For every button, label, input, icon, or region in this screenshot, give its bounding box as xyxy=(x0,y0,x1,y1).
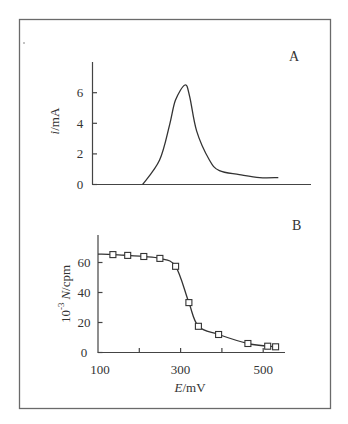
square-marker-icon xyxy=(245,341,251,347)
panel-b-y-ticks: 0204060 xyxy=(78,255,103,360)
panel-b-y-tick-label: 0 xyxy=(81,345,88,360)
panel-b-y-tick-label: 60 xyxy=(78,255,91,270)
panel-a-label: A xyxy=(289,49,300,64)
square-marker-icon xyxy=(110,252,116,258)
square-marker-icon xyxy=(265,343,271,349)
panel-b-x-axis-label: E/mV xyxy=(173,380,206,395)
square-marker-icon xyxy=(157,255,163,261)
panel-b-label: B xyxy=(292,218,301,233)
panel-b-ylabel-prefix: 10 xyxy=(58,310,73,323)
panel-b-y-axis-label: 10-3N/cpm xyxy=(56,265,73,323)
panel-a-current-curve xyxy=(143,85,279,185)
panel-a-ylabel-unit: /mA xyxy=(47,107,62,131)
speck-mark xyxy=(23,42,25,44)
panel-b-ylabel-sup: -3 xyxy=(56,302,66,310)
square-marker-icon xyxy=(173,263,179,269)
panel-a: A 0246 i/mA xyxy=(47,49,311,192)
panel-b-x-tick-label: 100 xyxy=(90,362,110,377)
panel-a-y-ticks: 0246 xyxy=(77,85,97,192)
panel-b-markers xyxy=(110,252,279,350)
square-marker-icon xyxy=(273,344,279,350)
panel-a-y-tick-label: 2 xyxy=(77,146,84,161)
figure: A 0246 i/mA B 0204060 100300500 10-3N/cp… xyxy=(0,0,348,424)
panel-b: B 0204060 100300500 10-3N/cpm E/mV xyxy=(56,218,301,395)
panel-a-y-axis-label: i/mA xyxy=(47,107,62,134)
panel-b-x-tick-label: 500 xyxy=(253,362,273,377)
panel-b-y-tick-label: 20 xyxy=(78,315,91,330)
panel-b-x-tick-label: 300 xyxy=(171,362,191,377)
panel-a-y-tick-label: 4 xyxy=(77,116,84,131)
square-marker-icon xyxy=(216,332,222,338)
panel-b-ylabel-unit: /cpm xyxy=(58,265,73,291)
panel-a-y-tick-label: 6 xyxy=(77,85,84,100)
square-marker-icon xyxy=(186,300,192,306)
panel-b-xlabel-unit: /mV xyxy=(182,380,206,395)
figure-frame xyxy=(20,20,331,409)
panel-b-y-tick-label: 40 xyxy=(78,285,91,300)
square-marker-icon xyxy=(195,323,201,329)
panel-a-y-tick-label: 0 xyxy=(77,177,84,192)
square-marker-icon xyxy=(141,254,147,260)
square-marker-icon xyxy=(125,252,131,258)
panel-b-xlabel-var: E xyxy=(173,380,182,395)
